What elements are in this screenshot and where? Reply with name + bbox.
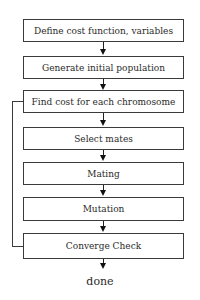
step-label: Find cost for each chromosome (32, 97, 176, 107)
arrow-down-icon (100, 263, 106, 269)
arrow-down-icon (100, 49, 106, 55)
arrow-down-icon (100, 226, 106, 232)
step-find-cost: Find cost for each chromosome (23, 90, 184, 113)
step-mating: Mating (23, 162, 184, 185)
arrow-down-icon (100, 120, 106, 126)
arrow-down-icon (100, 155, 106, 161)
loop-line-top (12, 101, 23, 102)
step-label: Generate initial population (42, 63, 165, 73)
step-label: Mutation (83, 204, 125, 214)
step-converge-check: Converge Check (23, 233, 184, 259)
arrow-down-icon (100, 190, 106, 196)
terminal-done: done (0, 275, 200, 288)
loop-line-bottom (12, 246, 23, 247)
step-label: Define cost function, variables (34, 26, 173, 36)
step-label: Select mates (74, 134, 133, 144)
step-define-cost-function: Define cost function, variables (23, 19, 184, 42)
step-generate-initial-population: Generate initial population (23, 56, 184, 79)
loop-line-vertical (12, 101, 13, 247)
step-mutation: Mutation (23, 197, 184, 221)
step-select-mates: Select mates (23, 127, 184, 150)
step-label: Converge Check (66, 241, 141, 251)
step-label: Mating (87, 169, 120, 179)
